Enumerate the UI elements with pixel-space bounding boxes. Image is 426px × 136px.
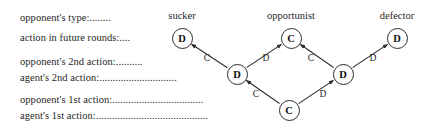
row-label-opponent-1st-action: opponent's 1st action:..................… bbox=[20, 94, 203, 106]
tree-node-leaf-opportunist: C bbox=[281, 28, 302, 49]
type-label-opportunist: opportunist bbox=[267, 10, 315, 22]
row-label-opponent-2nd-action: opponent's 2nd action:.......... bbox=[20, 56, 142, 68]
tree-node-leaf-defector: D bbox=[387, 28, 408, 49]
tree-edge bbox=[300, 45, 333, 68]
tree-node-leaf-sucker: D bbox=[172, 28, 193, 49]
row-label-opponent-type: opponent's type:........ bbox=[20, 12, 111, 24]
row-label-action-future-rounds: action in future rounds:.... bbox=[20, 32, 130, 44]
type-label-defector: defector bbox=[380, 10, 414, 22]
edge-label-root-to-mid-right: D bbox=[320, 89, 327, 99]
edge-label-mid-left-to-opportunist: D bbox=[263, 53, 270, 63]
type-label-sucker: sucker bbox=[168, 10, 195, 22]
edge-label-mid-right-to-opportunist: C bbox=[308, 53, 314, 63]
tree-edge bbox=[299, 80, 334, 103]
row-label-agent-1st-action: agent's 1st action:.....................… bbox=[20, 110, 208, 122]
edge-label-mid-right-to-defector: D bbox=[370, 53, 377, 63]
tree-node-mid-left: D bbox=[227, 64, 248, 85]
row-label-agent-2nd-action: agent's 2nd action:.....................… bbox=[20, 72, 177, 84]
edge-label-root-to-mid-left: C bbox=[253, 89, 259, 99]
edge-label-mid-left-to-sucker: C bbox=[204, 53, 210, 63]
figure-canvas: sucker opportunist defector opponent's t… bbox=[0, 0, 426, 136]
tree-node-root: C bbox=[279, 100, 300, 121]
tree-edge bbox=[246, 81, 279, 104]
tree-node-mid-right: D bbox=[333, 64, 354, 85]
